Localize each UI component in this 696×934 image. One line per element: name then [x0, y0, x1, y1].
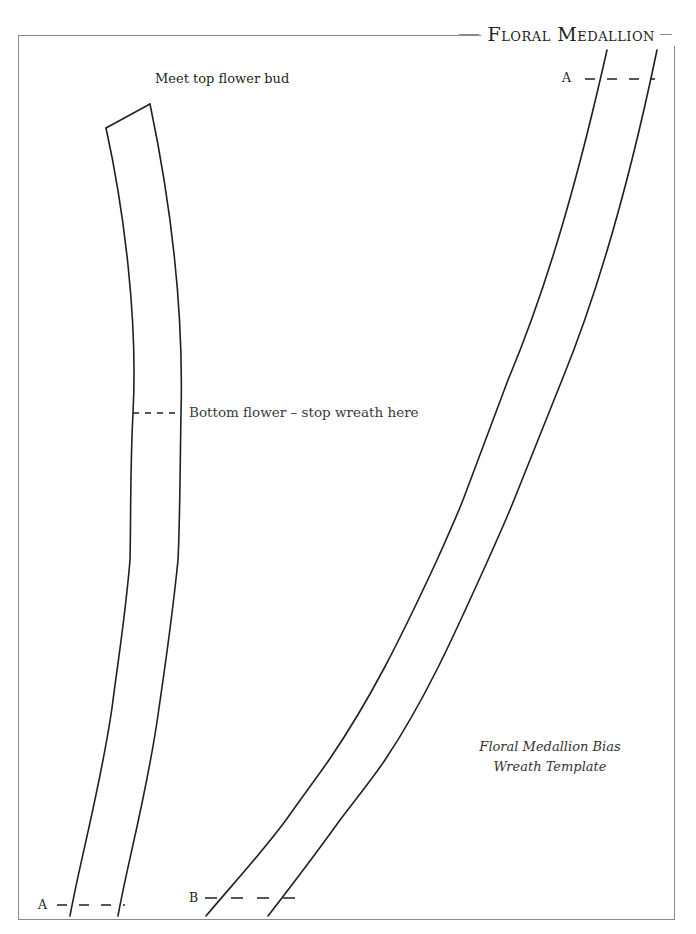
right-band-right-edge [268, 50, 657, 916]
marker-b: B [189, 892, 198, 905]
label-meet-top-flower-bud: Meet top flower bud [155, 72, 289, 85]
caption-line-1: Floral Medallion Bias [460, 737, 640, 757]
label-bottom-flower: Bottom flower – stop wreath here [189, 406, 419, 420]
left-band-top-edge [106, 104, 150, 128]
left-band-left-edge [70, 128, 134, 916]
caption-line-2: Wreath Template [460, 757, 640, 777]
template-drawing [0, 0, 696, 934]
right-band-left-edge [206, 50, 607, 916]
marker-a-bottom: A [38, 899, 47, 912]
left-band-right-edge [118, 104, 181, 916]
template-caption: Floral Medallion Bias Wreath Template [460, 737, 640, 777]
marker-a-top: A [562, 72, 571, 85]
